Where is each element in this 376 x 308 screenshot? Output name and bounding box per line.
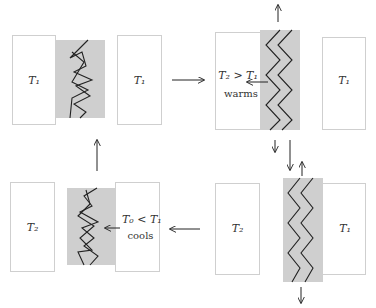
br-stretched-chain-1 — [288, 178, 300, 282]
diagram-lines — [0, 0, 376, 308]
tr-stretched-chain-2 — [278, 30, 292, 130]
br-stretched-chain-2 — [301, 178, 313, 282]
rubber-band-cycle-diagram: T₁ T₁ T₂ > T₁ warms T₁ T₂ T₁ T₂ T₀ < T₁ … — [0, 0, 376, 308]
